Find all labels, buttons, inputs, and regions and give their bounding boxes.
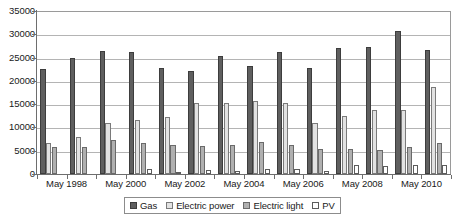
x-axis-tick-label: May 2000 — [100, 178, 152, 189]
legend-item-electric-light[interactable]: Electric light — [243, 200, 303, 211]
x-axis-tick-label: May 2002 — [159, 178, 211, 189]
legend-item-label: Electric power — [176, 200, 234, 211]
legend-item-electric-power[interactable]: Electric power — [166, 200, 234, 211]
y-axis-tick-mark — [32, 151, 37, 152]
legend-swatch-icon — [166, 202, 173, 209]
y-axis-tick-mark — [32, 81, 37, 82]
y-axis-tick-mark — [32, 11, 37, 12]
y-axis-tick-mark — [32, 58, 37, 59]
y-axis-tick-mark — [32, 127, 37, 128]
x-axis-tick-label: May 2008 — [336, 178, 388, 189]
y-axis-tick-mark — [32, 104, 37, 105]
x-axis-tick-label: May 1998 — [41, 178, 93, 189]
legend-item-label: PV — [322, 200, 334, 211]
legend-item-gas[interactable]: Gas — [130, 200, 157, 211]
legend-swatch-icon — [130, 202, 137, 209]
legend-swatch-icon — [312, 202, 319, 209]
legend-item-label: Electric light — [253, 200, 303, 211]
y-axis-tick-mark — [32, 34, 37, 35]
tick-marks — [0, 0, 453, 185]
legend-swatch-icon — [243, 202, 250, 209]
chart-legend: GasElectric powerElectric lightPV — [124, 197, 341, 214]
x-axis-tick-label: May 2010 — [395, 178, 447, 189]
x-axis-tick-label: May 2006 — [277, 178, 329, 189]
x-axis-tick-label: May 2004 — [218, 178, 270, 189]
legend-item-pv[interactable]: PV — [312, 200, 334, 211]
x-axis-labels: May 1998May 2000May 2002May 2004May 2006… — [0, 176, 453, 194]
legend-item-label: Gas — [140, 200, 157, 211]
bar-chart-figure: 05000100001500020000250003000035000 May … — [0, 0, 453, 219]
